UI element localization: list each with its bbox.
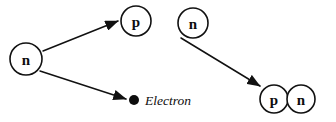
- particle-proton-product: p: [121, 6, 151, 36]
- neutron-to-proton-arrow: [43, 21, 118, 51]
- particle-decay-diagram: n p n p n Electron: [0, 0, 336, 122]
- neutron-to-proton-neutron-pair-arrow: [181, 38, 260, 86]
- electron-dot-icon: [129, 95, 139, 105]
- particle-neutron-bound: n: [287, 85, 315, 113]
- electron-group: Electron: [129, 93, 191, 108]
- neutron-bound-label: n: [297, 92, 306, 108]
- neutron-source-label: n: [22, 52, 31, 68]
- particle-neutron-free: n: [178, 8, 208, 38]
- arrow-group: [40, 21, 260, 99]
- particle-neutron-source: n: [10, 43, 42, 75]
- particle-proton-bound: p: [260, 85, 288, 113]
- proton-bound-label: p: [270, 92, 278, 108]
- electron-label: Electron: [144, 93, 191, 108]
- neutron-free-label: n: [189, 16, 198, 32]
- proton-product-label: p: [132, 14, 140, 30]
- diagram-canvas: n p n p n Electron: [0, 0, 336, 122]
- neutron-to-electron-arrow: [40, 71, 126, 99]
